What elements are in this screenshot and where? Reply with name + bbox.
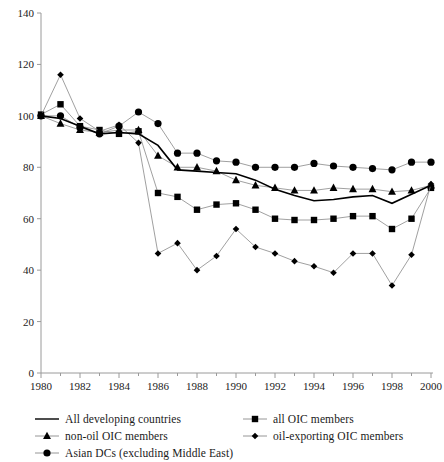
marker-diamond [194,267,201,274]
marker-circle [408,159,415,166]
x-tick-label: 1988 [186,380,209,392]
legend-entry-all-developing-countries: All developing countries [34,410,242,427]
chart-legend: All developing countriesall OIC membersn… [0,404,444,462]
marker-square [213,201,219,207]
marker-square [369,213,375,219]
marker-square [252,207,258,213]
marker-diamond [389,282,396,289]
marker-diamond [77,115,84,122]
marker-circle [330,162,337,169]
legend-row: non-oil OIC membersoil-exporting OIC mem… [34,427,444,444]
marker-circle [213,157,220,164]
legend-entry-oil-exporting-oic-members: oil-exporting OIC members [242,427,442,444]
legend-label: All developing countries [65,413,181,425]
marker-diamond [272,250,279,257]
marker-square [311,217,317,223]
legend-entry-asian-dcs-excluding-middle-east: Asian DCs (excluding Middle East) [34,444,242,461]
x-tick-label: 1994 [303,380,326,392]
marker-diamond [311,263,318,270]
marker-circle [427,159,434,166]
marker-diamond [252,432,259,439]
y-tick-label: 0 [29,367,35,379]
x-tick-label: 2000 [420,380,443,392]
legend-label: non-oil OIC members [65,430,168,442]
marker-square [272,216,278,222]
marker-triangle [43,431,51,438]
marker-square [330,216,336,222]
x-axis-tick-labels: 1980198219841986198819901992199419961998… [30,380,443,392]
legend-label: Asian DCs (excluding Middle East) [65,447,233,459]
marker-circle [349,164,356,171]
marker-circle [154,120,161,127]
y-tick-label: 140 [18,7,35,19]
marker-square [408,216,414,222]
marker-diamond [57,71,64,78]
x-tick-label: 1984 [108,380,131,392]
marker-circle [115,123,122,130]
line-chart-plot: 020406080100120140 198019821984198619881… [0,0,444,400]
marker-circle [388,166,395,173]
series-asian-dcs-excluding-middle-east [37,108,434,173]
legend-label: oil-exporting OIC members [273,430,403,442]
marker-triangle [349,185,357,192]
marker-square [389,226,395,232]
legend-entry-empty [242,444,442,461]
marker-diamond [408,251,415,258]
marker-square [252,415,258,421]
marker-square [350,213,356,219]
y-tick-label: 20 [23,316,35,328]
chart-series-group [37,71,435,288]
marker-diamond [155,250,162,257]
marker-diamond [174,240,181,247]
legend-row: All developing countriesall OIC members [34,410,444,427]
marker-square [194,207,200,213]
legend-circle-marker-icon [34,447,60,459]
y-axis-tick-labels: 020406080100120140 [18,7,35,379]
x-tick-label: 1986 [147,380,170,392]
marker-circle [43,449,50,456]
marker-triangle [369,185,377,192]
marker-circle [291,164,298,171]
marker-triangle [232,176,240,183]
y-tick-label: 80 [23,161,35,173]
y-tick-label: 40 [23,264,35,276]
legend-line-marker-icon [34,413,60,425]
marker-square [57,101,63,107]
legend-triangle-marker-icon [34,430,60,442]
legend-entry-all-oic-members: all OIC members [242,410,442,427]
marker-circle [135,108,142,115]
marker-diamond [369,250,376,257]
legend-label: all OIC members [273,413,354,425]
marker-circle [174,150,181,157]
x-tick-label: 1992 [264,380,286,392]
marker-circle [271,164,278,171]
legend-entry-non-oil-oic-members: non-oil OIC members [34,427,242,444]
marker-diamond [213,253,220,260]
legend-row: Asian DCs (excluding Middle East) [34,444,444,461]
legend-square-marker-icon [242,413,268,425]
marker-square [233,200,239,206]
legend-diamond-marker-icon [242,430,268,442]
y-tick-label: 60 [23,213,35,225]
marker-triangle [330,184,338,191]
marker-square [291,217,297,223]
marker-circle [193,150,200,157]
marker-circle [252,164,259,171]
marker-triangle [193,163,201,170]
marker-diamond [291,258,298,265]
x-tick-label: 1996 [342,380,365,392]
marker-circle [310,160,317,167]
legend-grid: All developing countriesall OIC membersn… [34,410,444,461]
marker-circle [369,165,376,172]
marker-square [155,190,161,196]
marker-circle [232,159,239,166]
x-tick-label: 1990 [225,380,248,392]
chart-figure: 020406080100120140 198019821984198619881… [0,0,444,462]
y-tick-label: 100 [18,110,35,122]
y-tick-label: 120 [18,58,35,70]
series-non-oil-oic-members [37,112,435,195]
x-tick-label: 1998 [381,380,404,392]
x-tick-label: 1980 [30,380,53,392]
x-tick-label: 1982 [69,380,91,392]
marker-square [174,194,180,200]
